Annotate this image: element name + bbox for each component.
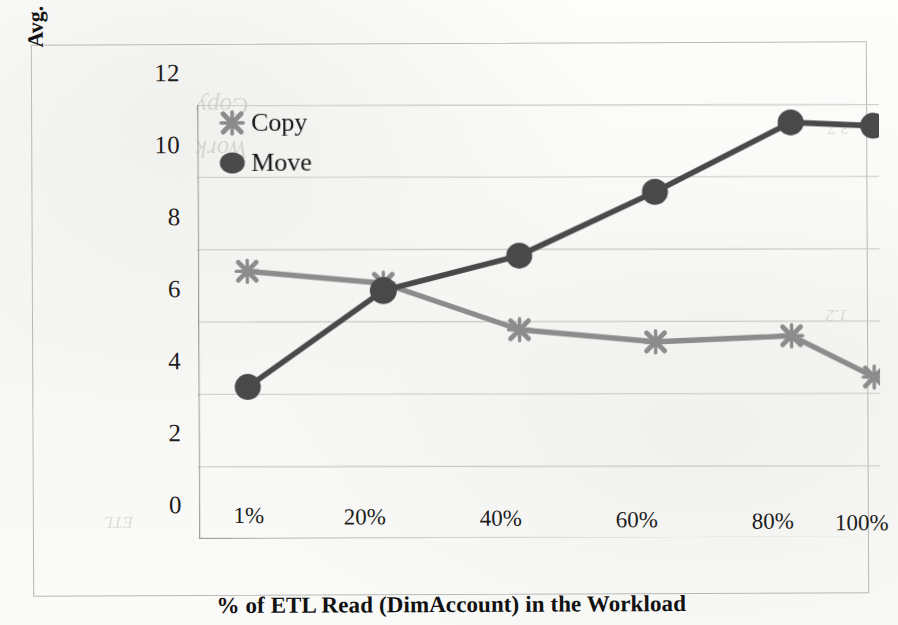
y-tick-label-8: 8: [120, 203, 180, 231]
x-tick-label-100pct: 100%: [802, 510, 898, 537]
legend-item-move[interactable]: Move: [215, 142, 365, 183]
y-tick-label-12: 12: [105, 59, 180, 87]
y-tick-label-2: 2: [121, 419, 181, 447]
y-axis-title-line2: (ms): [47, 0, 74, 86]
x-tick-label-1pct: 1%: [189, 503, 309, 530]
y-tick-label-0: 0: [122, 491, 182, 519]
y-tick-label-6: 6: [121, 275, 181, 303]
y-tick-label-4: 4: [121, 347, 181, 375]
chart-frame: Avg. Latency for Ingestion and Update (m…: [31, 41, 869, 597]
legend-item-copy[interactable]: Copy: [215, 102, 365, 143]
legend-label-copy: Copy: [251, 110, 307, 136]
x-tick-label-60pct: 60%: [577, 507, 697, 534]
legend: Copy Move: [215, 102, 365, 183]
y-axis-title: Avg. Latency for Ingestion and Update (m…: [22, 0, 73, 86]
y-axis-title-line1: Avg. Latency for Ingestion and Update: [21, 0, 48, 48]
x-star-marker-icon: [215, 108, 249, 138]
circle-marker-icon: [215, 148, 249, 178]
plot-area: Copy Move: [197, 102, 881, 539]
x-tick-label-20pct: 20%: [305, 504, 425, 531]
x-axis-title: % of ETL Read (DimAccount) in the Worklo…: [34, 590, 868, 620]
y-tick-label-10: 10: [105, 131, 180, 159]
scanned-page: Copy Work 3.7 1.2 ETL Avg. Latency for I…: [0, 0, 898, 625]
x-tick-label-40pct: 40%: [441, 506, 561, 533]
legend-label-move: Move: [251, 150, 312, 176]
